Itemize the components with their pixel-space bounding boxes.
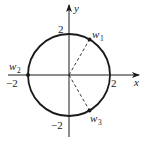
x-axis-label: x xyxy=(133,76,139,88)
svg-text:2: 2 xyxy=(17,66,21,75)
svg-text:w: w xyxy=(92,28,100,40)
tick-x-neg: −2 xyxy=(6,77,18,89)
tick-y-pos: 2 xyxy=(58,23,64,35)
label-w1: w 1 xyxy=(92,28,104,43)
y-axis-label: y xyxy=(73,2,79,14)
radius-to-w1 xyxy=(69,40,90,76)
point-w1 xyxy=(88,38,92,42)
label-w2: w 2 xyxy=(9,60,21,75)
svg-text:w: w xyxy=(9,60,17,72)
tick-x-pos: 2 xyxy=(111,77,117,89)
complex-plane-diagram: y x 2 −2 2 −2 w 1 w 2 w 3 xyxy=(0,0,145,142)
tick-y-neg: −2 xyxy=(51,119,63,131)
svg-text:3: 3 xyxy=(98,118,102,127)
radius-to-w3 xyxy=(69,75,90,111)
svg-text:w: w xyxy=(90,112,98,124)
point-w2 xyxy=(26,73,30,77)
label-w3: w 3 xyxy=(90,112,102,127)
svg-text:1: 1 xyxy=(100,34,104,43)
